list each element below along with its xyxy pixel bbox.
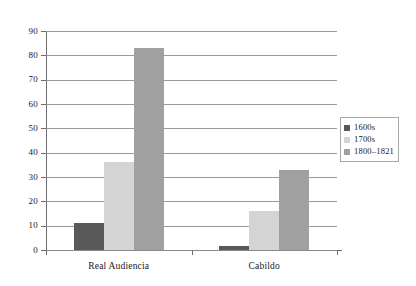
y-tick-label-0: 0 <box>4 246 38 255</box>
legend-label: 1600s <box>354 123 375 132</box>
y-axis-tick-labels: 0102030405060708090 <box>0 0 38 286</box>
y-tick-mark-80 <box>41 55 46 56</box>
legend-swatch-icon <box>344 125 350 131</box>
gridline-60 <box>46 104 337 105</box>
legend-swatch-icon <box>344 137 350 143</box>
legend-item: 1800–1821 <box>344 146 394 157</box>
bar <box>279 170 309 250</box>
gridline-80 <box>46 55 337 56</box>
y-tick-label-50: 50 <box>4 124 38 133</box>
y-tick-mark-60 <box>41 104 46 105</box>
y-tick-mark-50 <box>41 128 46 129</box>
y-tick-label-80: 80 <box>4 51 38 60</box>
x-tick-mark-1 <box>192 250 193 255</box>
y-tick-mark-20 <box>41 201 46 202</box>
y-tick-label-70: 70 <box>4 75 38 84</box>
legend-label: 1800–1821 <box>354 147 394 156</box>
y-tick-mark-30 <box>41 177 46 178</box>
chart-legend: 1600s1700s1800–1821 <box>340 117 399 162</box>
bar-chart: 0102030405060708090 1600s1700s1800–1821 … <box>0 0 416 286</box>
x-tick-mark-0 <box>46 250 47 255</box>
bar <box>219 246 249 250</box>
gridline-90 <box>46 31 337 32</box>
x-axis-category-label: Cabildo <box>192 261 338 272</box>
y-tick-label-20: 20 <box>4 197 38 206</box>
y-tick-mark-70 <box>41 80 46 81</box>
y-tick-label-90: 90 <box>4 27 38 36</box>
y-tick-label-40: 40 <box>4 148 38 157</box>
y-tick-mark-90 <box>41 31 46 32</box>
x-tick-mark-2 <box>337 250 338 255</box>
bar <box>249 211 279 250</box>
gridline-70 <box>46 80 337 81</box>
plot-area <box>46 31 337 250</box>
y-tick-label-60: 60 <box>4 100 38 109</box>
y-tick-mark-40 <box>41 153 46 154</box>
bar <box>134 48 164 250</box>
gridline-50 <box>46 128 337 129</box>
y-tick-mark-10 <box>41 226 46 227</box>
y-tick-label-30: 30 <box>4 173 38 182</box>
legend-item: 1700s <box>344 134 394 145</box>
gridline-40 <box>46 153 337 154</box>
x-axis-category-label: Real Audiencia <box>46 261 192 272</box>
y-tick-label-10: 10 <box>4 221 38 230</box>
legend-swatch-icon <box>344 149 350 155</box>
legend-item: 1600s <box>344 122 394 133</box>
bar <box>104 162 134 250</box>
bar <box>74 223 104 250</box>
legend-label: 1700s <box>354 135 375 144</box>
